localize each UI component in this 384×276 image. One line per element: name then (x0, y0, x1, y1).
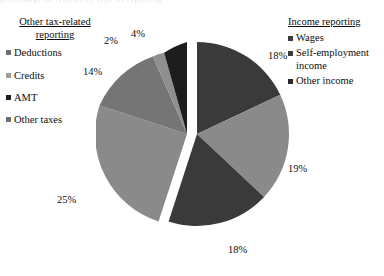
legend-label-other-income: Other income (296, 75, 382, 87)
legend-label-self-employment-line2: income (296, 60, 382, 72)
legend-left-title-line2: reporting (36, 29, 75, 40)
legend-income-reporting: Income reporting Wages Self-employmentin… (288, 15, 384, 90)
pct-label-credits: 2% (104, 35, 118, 46)
pct-label-self-employment-income: 19% (288, 163, 307, 174)
pie-chart (96, 28, 296, 240)
pie-group-other-tax-related (96, 42, 187, 221)
legend-right-title: Income reporting (288, 15, 384, 28)
legend-label-wages: Wages (296, 32, 382, 44)
legend-label-self-employment-line1: Self-employment (296, 47, 369, 58)
pct-label-amt: 4% (131, 28, 145, 39)
legend-right-items: Wages Self-employmentincome Other income (288, 32, 384, 87)
legend-swatch-icon-other-taxes (6, 117, 11, 122)
legend-item-self-employment-income[interactable]: Self-employmentincome (288, 47, 384, 71)
legend-label-amt: AMT (14, 91, 37, 104)
chart-canvas: percentage of returns by type of reporti… (0, 0, 384, 276)
pct-label-wages: 18% (268, 50, 287, 61)
legend-item-other-income[interactable]: Other income (288, 75, 384, 87)
legend-swatch-icon-deductions (6, 50, 11, 55)
legend-left-title: Other tax-related reporting (6, 15, 104, 41)
pct-label-other-income: 18% (228, 244, 247, 255)
legend-label-deductions: Deductions (14, 46, 62, 59)
legend-item-wages[interactable]: Wages (288, 32, 384, 44)
pct-label-other-taxes: 25% (57, 194, 76, 205)
clipped-header-text: percentage of returns by type of reporti… (0, 0, 384, 7)
legend-label-credits: Credits (14, 69, 44, 82)
legend-left-title-line1: Other tax-related (19, 16, 90, 27)
legend-swatch-icon-amt (6, 95, 11, 100)
legend-label-other-taxes: Other taxes (14, 113, 62, 126)
legend-label-self-employment-income: Self-employmentincome (296, 47, 382, 71)
legend-swatch-icon-credits (6, 73, 11, 78)
pct-label-deductions: 14% (83, 66, 102, 77)
